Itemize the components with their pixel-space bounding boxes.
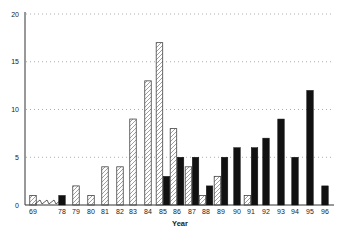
bar-solid xyxy=(251,148,257,205)
bar-solid xyxy=(59,195,66,205)
bar-chart: 05101520 6978798081828384858687888990919… xyxy=(0,0,344,239)
bar-hatched xyxy=(145,81,152,205)
bar-solid xyxy=(322,186,329,205)
x-tick-label: 94 xyxy=(291,208,299,215)
bar-hatched xyxy=(30,195,37,205)
bar-hatched xyxy=(130,119,137,205)
y-tick-label: 0 xyxy=(15,202,19,209)
y-tick-label: 15 xyxy=(11,58,19,65)
bar-solid xyxy=(307,90,314,205)
bar-hatched xyxy=(73,186,80,205)
x-tick-label: 79 xyxy=(72,208,80,215)
axis-break-icon xyxy=(35,200,61,204)
bar-solid xyxy=(278,119,285,205)
x-tick-label: 93 xyxy=(277,208,285,215)
y-axis-ticks: 05101520 xyxy=(11,11,19,209)
bar-hatched xyxy=(88,195,95,205)
y-tick-label: 20 xyxy=(11,11,19,18)
x-tick-label: 89 xyxy=(217,208,225,215)
gridlines xyxy=(26,14,334,157)
bar-hatched xyxy=(199,195,206,205)
x-tick-label: 78 xyxy=(58,208,66,215)
x-tick-label: 91 xyxy=(247,208,255,215)
x-tick-label: 88 xyxy=(202,208,210,215)
x-axis-title: Year xyxy=(172,219,188,228)
x-tick-label: 87 xyxy=(188,208,196,215)
x-tick-label: 84 xyxy=(144,208,152,215)
bar-solid xyxy=(192,157,199,205)
x-tick-label: 69 xyxy=(29,208,37,215)
x-tick-label: 96 xyxy=(321,208,329,215)
x-tick-label: 81 xyxy=(101,208,109,215)
bar-solid xyxy=(292,157,299,205)
bar-hatched xyxy=(214,176,221,205)
x-tick-label: 90 xyxy=(233,208,241,215)
y-tick-label: 5 xyxy=(15,154,19,161)
x-tick-label: 86 xyxy=(173,208,181,215)
bar-hatched xyxy=(185,167,192,205)
bar-hatched xyxy=(117,167,124,205)
x-axis-ticks: 6978798081828384858687888990919293949596 xyxy=(29,208,329,215)
x-tick-label: 83 xyxy=(129,208,137,215)
bars xyxy=(30,43,329,205)
x-tick-label: 82 xyxy=(116,208,124,215)
bar-solid xyxy=(206,186,213,205)
bar-solid xyxy=(177,157,184,205)
bar-hatched xyxy=(244,195,251,205)
bar-solid xyxy=(163,176,170,205)
bar-solid xyxy=(221,157,228,205)
x-tick-label: 80 xyxy=(87,208,95,215)
x-tick-label: 92 xyxy=(262,208,270,215)
x-tick-label: 85 xyxy=(159,208,167,215)
bar-solid xyxy=(234,148,241,205)
x-tick-label: 95 xyxy=(306,208,314,215)
bar-hatched xyxy=(170,129,177,205)
bar-hatched xyxy=(156,43,163,205)
bar-solid xyxy=(263,138,270,205)
y-tick-label: 10 xyxy=(11,106,19,113)
bar-hatched xyxy=(102,167,109,205)
